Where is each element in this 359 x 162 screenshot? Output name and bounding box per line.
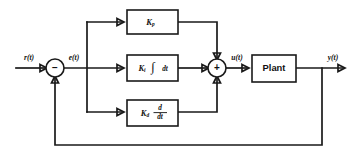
derivative-block: Kd d dt: [127, 100, 178, 126]
signal-label-output: y(t): [327, 53, 339, 62]
integral-block: Ki ∫ dt: [127, 55, 178, 81]
plant-block: Plant: [252, 55, 296, 82]
plant-block-label: Plant: [263, 62, 286, 73]
error-junction-sign: −: [52, 62, 58, 73]
signal-label-control: u(t): [231, 53, 243, 62]
diagram-canvas: − + Kp Ki ∫ dt Kd d: [0, 0, 359, 162]
error-summing-junction: −: [46, 59, 64, 77]
proportional-gain-subscript: p: [151, 21, 155, 27]
signal-label-error: e(t): [69, 53, 80, 62]
control-junction-sign: +: [214, 62, 220, 73]
signal-label-reference: r(t): [24, 53, 35, 62]
wire-proportional-to-sum: [178, 22, 217, 59]
derivative-gain-subscript: d: [146, 112, 149, 118]
pid-block-diagram: − + Kp Ki ∫ dt Kd d: [0, 0, 359, 162]
wire-derivative-to-sum: [178, 77, 217, 112]
derivative-block-rect: [127, 100, 178, 126]
derivative-numerator-label: d: [158, 104, 162, 112]
control-summing-junction: +: [208, 59, 226, 77]
proportional-block: Kp: [127, 10, 178, 34]
